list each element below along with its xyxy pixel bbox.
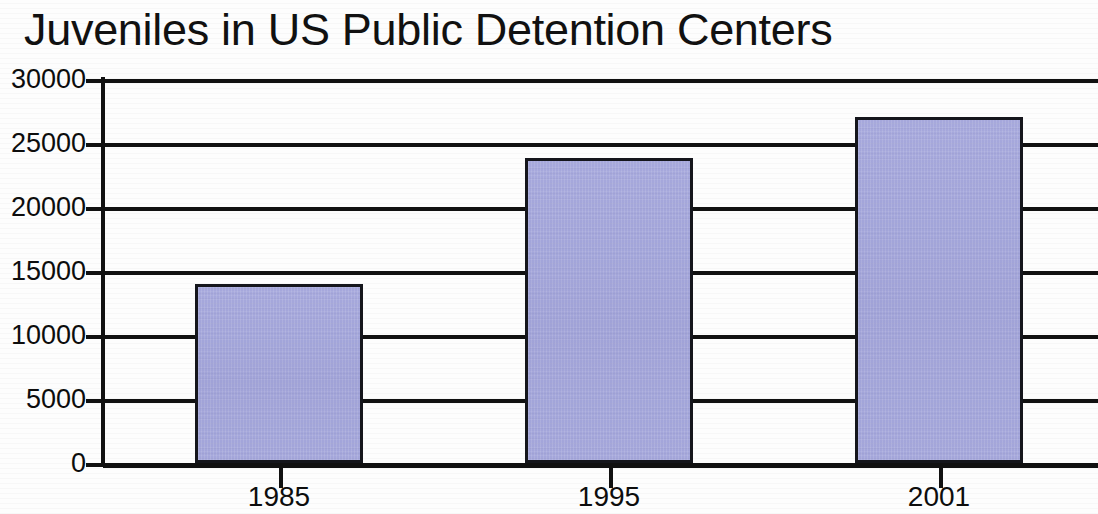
- gridline-30000: [103, 79, 1098, 83]
- y-tick-label-10000: 10000: [2, 322, 86, 349]
- bar-1985[interactable]: [195, 284, 363, 463]
- bar-2001[interactable]: [855, 117, 1023, 463]
- bar-1995[interactable]: [525, 158, 693, 463]
- x-tick-label-1985: 1985: [179, 482, 379, 512]
- bar-texture: [528, 161, 690, 460]
- x-tick-label-2001: 2001: [839, 482, 1039, 512]
- y-tick-label-15000: 15000: [2, 258, 86, 285]
- bar-texture: [198, 287, 360, 460]
- y-tick-label-0: 0: [2, 450, 86, 477]
- y-axis-tick-labels: 30000 25000 20000 15000 10000 5000 0: [0, 0, 86, 514]
- y-tick-label-20000: 20000: [2, 194, 86, 221]
- plot-area: [103, 79, 1098, 463]
- bar-chart: Juveniles in US Public Detention Centers…: [0, 0, 1098, 514]
- x-tick-label-1995: 1995: [509, 482, 709, 512]
- bar-texture: [858, 120, 1020, 460]
- y-tick-label-30000: 30000: [2, 66, 86, 93]
- chart-title: Juveniles in US Public Detention Centers: [24, 2, 1034, 58]
- gridline-0-baseline: [103, 463, 1098, 468]
- y-tick-label-25000: 25000: [2, 130, 86, 157]
- y-tick-label-5000: 5000: [2, 386, 86, 413]
